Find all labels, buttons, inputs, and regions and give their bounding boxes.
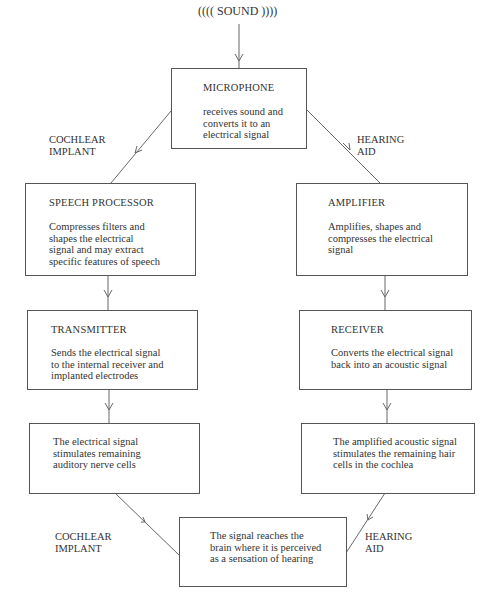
nerve-stimulation-box: The electrical signal stimulates remaini… (29, 423, 200, 494)
cochlear-implant-label-top: COCHLEAR IMPLANT (49, 134, 106, 157)
box-description: The signal reaches the brain where it is… (210, 530, 321, 565)
box-title: TRANSMITTER (51, 324, 127, 335)
brain-perception-box: The signal reaches the brain where it is… (179, 517, 347, 587)
transmitter-box: TRANSMITTER Sends the electrical signal … (27, 310, 198, 390)
label-line: IMPLANT (55, 543, 112, 555)
amplifier-box: AMPLIFIER Amplifies, shapes and compress… (296, 183, 468, 276)
box-title: SPEECH PROCESSOR (49, 197, 154, 208)
microphone-box: MICROPHONE receives sound and converts i… (171, 68, 307, 149)
label-line: COCHLEAR (55, 531, 112, 543)
label-line: COCHLEAR (49, 134, 106, 146)
label-line: AID (357, 146, 404, 158)
box-description: Converts the electrical signal back into… (331, 347, 453, 370)
box-title: RECEIVER (331, 324, 384, 335)
hair-cell-stimulation-box: The amplified acoustic signal stimulates… (301, 423, 475, 494)
box-description: receives sound and converts it to an ele… (203, 106, 283, 141)
receiver-box: RECEIVER Converts the electrical signal … (299, 310, 472, 390)
box-description: Sends the electrical signal to the inter… (51, 347, 164, 382)
box-description: The electrical signal stimulates remaini… (53, 436, 141, 471)
box-description: Compresses filters and shapes the electr… (49, 221, 160, 267)
cochlear-implant-label-bottom: COCHLEAR IMPLANT (55, 531, 112, 554)
label-line: AID (365, 543, 412, 555)
label-line: IMPLANT (49, 146, 106, 158)
box-title: AMPLIFIER (328, 197, 385, 208)
label-line: HEARING (365, 531, 412, 543)
box-description: The amplified acoustic signal stimulates… (333, 436, 457, 471)
box-title: MICROPHONE (203, 82, 274, 93)
speech-processor-box: SPEECH PROCESSOR Compresses filters and … (25, 183, 196, 276)
label-line: HEARING (357, 134, 404, 146)
box-description: Amplifies, shapes and compresses the ele… (328, 221, 433, 256)
hearing-aid-label-top: HEARING AID (357, 134, 404, 157)
hearing-aid-label-bottom: HEARING AID (365, 531, 412, 554)
sound-source-label: (((( SOUND )))) (198, 4, 277, 19)
